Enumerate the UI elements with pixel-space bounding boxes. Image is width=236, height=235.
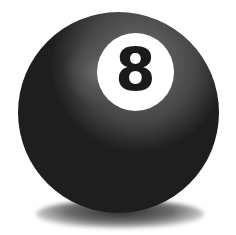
ball-number: 8 (115, 41, 155, 99)
number-label-disc: 8 (97, 33, 174, 111)
